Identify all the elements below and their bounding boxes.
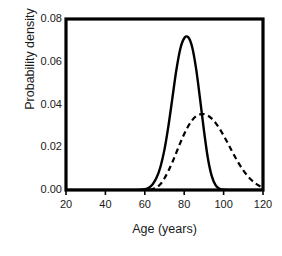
x-axis-tick-labels: 20406080100120 bbox=[0, 0, 282, 256]
x-tick-label: 120 bbox=[243, 199, 282, 210]
x-tick-label: 60 bbox=[125, 199, 165, 210]
x-tick-label: 80 bbox=[164, 199, 204, 210]
x-tick-label: 100 bbox=[204, 199, 244, 210]
x-tick-label: 40 bbox=[85, 199, 125, 210]
x-tick-label: 20 bbox=[46, 199, 86, 210]
chart-figure: Probability density Age (years) 0.000.02… bbox=[0, 0, 282, 256]
